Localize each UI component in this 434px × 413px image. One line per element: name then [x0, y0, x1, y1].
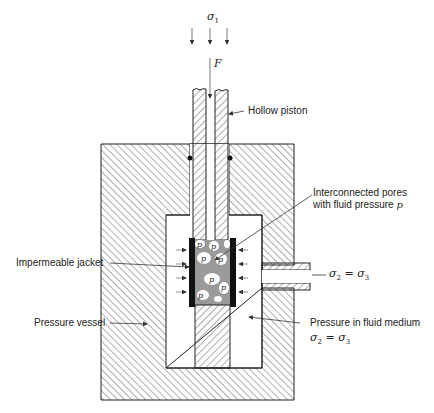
leader-hollow-piston	[229, 111, 244, 114]
force-label: F	[214, 57, 222, 70]
label-fluid-pressure: with fluid pressure p	[313, 199, 403, 211]
label-impermeable-jacket: Impermeable jacket	[16, 257, 103, 269]
piston-left-wall	[193, 89, 206, 241]
svg-text:p: p	[197, 240, 202, 249]
label-hollow-piston: Hollow piston	[248, 105, 307, 117]
svg-text:p: p	[209, 275, 214, 284]
port-tube-upper	[262, 263, 310, 270]
seal-left	[188, 156, 193, 161]
port-stress-label: σ2 = σ3	[329, 267, 369, 282]
svg-text:p: p	[221, 283, 226, 292]
svg-text:p: p	[211, 242, 216, 251]
jacket-left	[189, 238, 195, 307]
label-interconnected-pores: Interconnected pores	[313, 187, 407, 199]
lower-plug	[195, 305, 230, 368]
seal-right	[228, 156, 233, 161]
svg-text:p: p	[198, 291, 203, 300]
label-pressure-fluid-medium: Pressure in fluid medium	[310, 317, 420, 329]
fluid-stress-label: σ2 = σ3	[310, 331, 350, 346]
sigma1-label: σ1	[207, 10, 219, 25]
piston-right-wall	[215, 90, 228, 241]
port-tube-lower	[262, 283, 310, 290]
svg-text:p: p	[201, 254, 206, 263]
label-pressure-vessel: Pressure vessel	[34, 317, 105, 329]
